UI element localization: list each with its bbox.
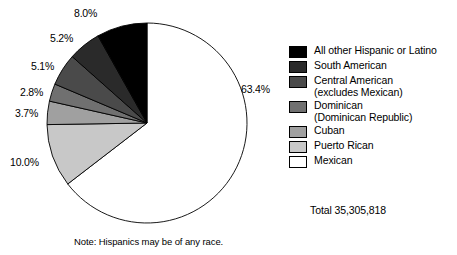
pct-dominican: 2.8% <box>20 87 43 98</box>
legend-label-group: Dominican(Dominican Republic) <box>314 100 412 123</box>
legend-label-group: Mexican <box>314 155 352 167</box>
legend-sublabel: (excludes Mexican) <box>314 87 403 99</box>
legend-swatch-icon <box>289 126 307 138</box>
chart-canvas: 8.0%5.2%5.1%2.8%3.7%10.0%63.4% All other… <box>0 0 457 255</box>
legend-item[interactable]: South American <box>289 60 457 73</box>
pct-cuban: 3.7% <box>15 108 38 119</box>
legend-sublabel: (Dominican Republic) <box>314 112 412 124</box>
legend-label: Central American <box>314 75 403 87</box>
total-label: Total 35,305,818 <box>310 204 386 216</box>
legend-label: South American <box>314 60 387 72</box>
legend-item[interactable]: Cuban <box>289 125 457 138</box>
chart-note: Note: Hispanics may be of any race. <box>74 236 223 247</box>
legend-label-group: Puerto Rican <box>314 140 374 152</box>
pct-all-other: 8.0% <box>74 8 97 19</box>
legend-label: Mexican <box>314 155 352 167</box>
pie-chart <box>0 0 300 230</box>
pct-mexican: 63.4% <box>241 84 270 95</box>
legend-label-group: South American <box>314 60 387 72</box>
legend-label: Cuban <box>314 125 344 137</box>
legend-label-group: Cuban <box>314 125 344 137</box>
legend-swatch-icon <box>289 46 307 58</box>
legend: All other Hispanic or LatinoSouth Americ… <box>289 45 457 170</box>
legend-swatch-icon <box>289 61 307 73</box>
legend-item[interactable]: Mexican <box>289 155 457 168</box>
legend-label: Puerto Rican <box>314 140 374 152</box>
pct-puerto-rican: 10.0% <box>10 157 39 168</box>
legend-swatch-icon <box>289 101 307 113</box>
legend-swatch-icon <box>289 141 307 153</box>
pct-central-american: 5.1% <box>31 61 54 72</box>
legend-item[interactable]: All other Hispanic or Latino <box>289 45 457 58</box>
legend-label: All other Hispanic or Latino <box>314 45 437 57</box>
legend-item[interactable]: Central American(excludes Mexican) <box>289 75 457 98</box>
legend-label-group: All other Hispanic or Latino <box>314 45 437 57</box>
legend-swatch-icon <box>289 76 307 88</box>
legend-item[interactable]: Puerto Rican <box>289 140 457 153</box>
pie-svg <box>0 0 300 235</box>
pct-south-american: 5.2% <box>50 33 73 44</box>
legend-swatch-icon <box>289 156 307 168</box>
legend-item[interactable]: Dominican(Dominican Republic) <box>289 100 457 123</box>
legend-label-group: Central American(excludes Mexican) <box>314 75 403 98</box>
